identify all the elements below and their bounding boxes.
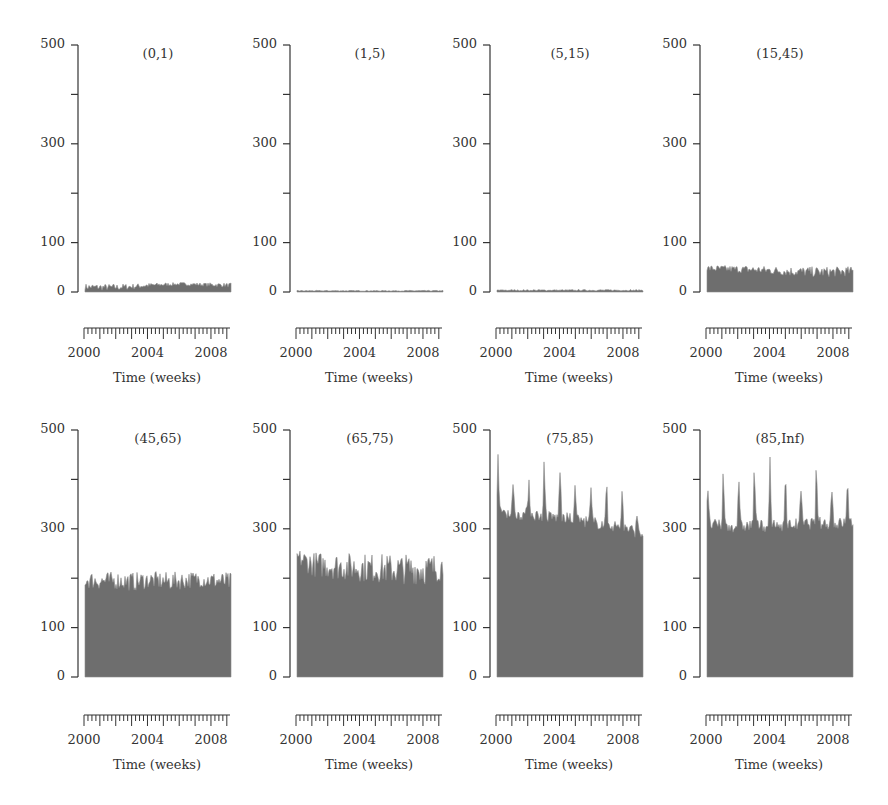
x-axis-title: Time (weeks) bbox=[699, 757, 859, 772]
y-tick-label: 500 bbox=[647, 421, 687, 436]
data-area bbox=[707, 457, 853, 677]
y-tick-label: 0 bbox=[647, 668, 687, 683]
x-tick-label: 2004 bbox=[739, 732, 799, 747]
panel-title: (85,Inf) bbox=[707, 431, 853, 446]
panel-plot bbox=[0, 0, 888, 805]
y-tick-label: 300 bbox=[647, 520, 687, 535]
x-tick-label: 2000 bbox=[676, 732, 736, 747]
y-tick-label: 100 bbox=[647, 619, 687, 634]
x-tick-label: 2008 bbox=[803, 732, 863, 747]
